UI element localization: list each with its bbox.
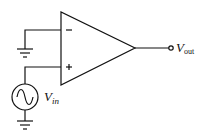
inverting-input-wire — [25, 30, 61, 49]
ground-icon — [17, 121, 33, 129]
non-inverting-sign — [66, 64, 72, 70]
vout-label: Vout — [176, 40, 195, 56]
op-amp-triangle — [61, 12, 135, 85]
vin-label: Vin — [44, 89, 59, 106]
non-inverting-input-wire — [25, 67, 61, 84]
output-terminal-icon — [169, 46, 173, 50]
op-amp-circuit: Vin Vout — [0, 0, 202, 138]
ac-source-icon — [12, 84, 38, 110]
ground-icon — [17, 49, 33, 57]
